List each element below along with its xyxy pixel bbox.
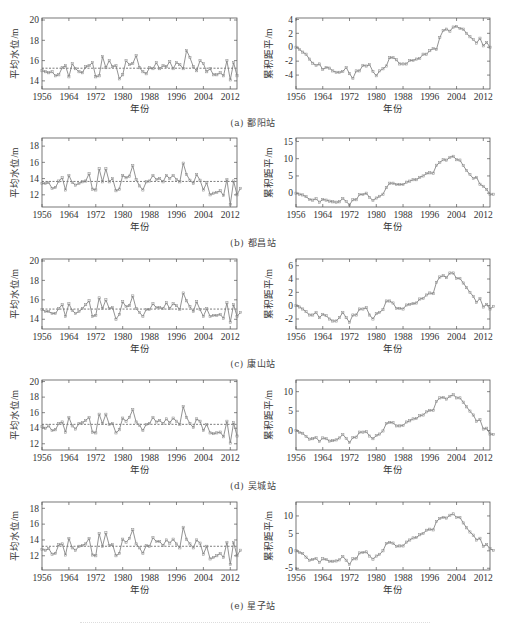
y-axis-label: 平均水位/m bbox=[9, 28, 20, 79]
x-tick-label: 1956 bbox=[287, 332, 306, 342]
x-tick-label: 2012 bbox=[221, 332, 240, 342]
x-axis-label: 年份 bbox=[383, 584, 403, 595]
x-tick-label: 1972 bbox=[340, 210, 359, 220]
y-tick-label: -4 bbox=[285, 70, 293, 80]
plot-frame bbox=[42, 380, 237, 450]
plot-frame bbox=[42, 502, 237, 570]
chart-e-water-level: 1956196419721980198819962004201212141618… bbox=[0, 495, 253, 605]
x-tick-label: 1996 bbox=[167, 332, 186, 342]
x-tick-label: 1964 bbox=[313, 332, 332, 342]
x-tick-label: 2012 bbox=[474, 92, 493, 102]
caption-a: (a) 鄱阳站 bbox=[0, 116, 506, 129]
y-tick-label: 10 bbox=[284, 154, 294, 164]
y-tick-label: 20 bbox=[30, 256, 40, 266]
series-line bbox=[42, 293, 240, 322]
y-axis-label: 平均水位/m bbox=[9, 510, 20, 561]
y-tick-label: 12 bbox=[30, 190, 40, 200]
plot-frame bbox=[42, 18, 237, 89]
y-tick-label: 20 bbox=[30, 15, 40, 25]
series-line bbox=[42, 527, 240, 564]
x-tick-label: 1980 bbox=[113, 573, 132, 583]
x-tick-label: 2012 bbox=[474, 453, 493, 463]
y-tick-label: 18 bbox=[30, 36, 40, 46]
y-tick-label: 14 bbox=[30, 423, 40, 433]
x-tick-label: 1988 bbox=[140, 92, 159, 102]
chart-svg: 19561964197219801988199620042012-50510年份… bbox=[253, 495, 506, 605]
y-axis-label: 平均水位/m bbox=[9, 389, 20, 440]
x-tick-label: 1964 bbox=[313, 92, 332, 102]
chart-b-cumulative-anomaly: 19561964197219801988199620042012051015年份… bbox=[253, 131, 506, 241]
x-tick-label: 1972 bbox=[340, 92, 359, 102]
x-tick-label: 2004 bbox=[447, 332, 466, 342]
caption-c: (c) 康山站 bbox=[0, 357, 506, 370]
x-tick-label: 1964 bbox=[59, 453, 78, 463]
y-tick-label: -2 bbox=[285, 314, 293, 324]
x-tick-label: 2012 bbox=[221, 92, 240, 102]
y-tick-label: 16 bbox=[30, 408, 40, 418]
x-tick-label: 1964 bbox=[59, 92, 78, 102]
series-line bbox=[296, 26, 490, 78]
x-tick-label: 1964 bbox=[59, 573, 78, 583]
series-line bbox=[296, 156, 493, 205]
y-tick-label: 14 bbox=[30, 76, 40, 86]
figure-footer-cropped bbox=[80, 622, 430, 626]
y-tick-label: 16 bbox=[30, 56, 40, 66]
x-tick-label: 1996 bbox=[167, 573, 186, 583]
x-tick-label: 2004 bbox=[194, 573, 213, 583]
chart-svg: 195619641972198019881996200420120510年份累积… bbox=[253, 373, 506, 483]
x-tick-label: 1988 bbox=[394, 332, 413, 342]
plot-frame bbox=[296, 138, 490, 207]
x-tick-label: 1996 bbox=[167, 92, 186, 102]
chart-svg: 19561964197219801988199620042012051015年份… bbox=[253, 131, 506, 241]
caption-b: (b) 都昌站 bbox=[0, 236, 506, 249]
x-tick-label: 1956 bbox=[33, 210, 52, 220]
y-axis-label: 平均水位/m bbox=[9, 268, 20, 319]
x-tick-label: 1980 bbox=[113, 210, 132, 220]
x-tick-label: 1956 bbox=[33, 332, 52, 342]
x-tick-label: 1964 bbox=[313, 453, 332, 463]
x-tick-label: 1972 bbox=[340, 332, 359, 342]
x-tick-label: 1972 bbox=[340, 573, 359, 583]
x-tick-label: 1988 bbox=[140, 573, 159, 583]
chart-b-water-level: 1956196419721980198819962004201212141618… bbox=[0, 131, 253, 241]
y-tick-label: 15 bbox=[284, 137, 294, 147]
y-tick-label: 14 bbox=[30, 535, 40, 545]
x-tick-label: 2012 bbox=[474, 573, 493, 583]
y-tick-label: 10 bbox=[284, 511, 294, 521]
series-line bbox=[296, 395, 493, 443]
x-tick-label: 1964 bbox=[313, 573, 332, 583]
x-tick-label: 1980 bbox=[113, 332, 132, 342]
plot-frame bbox=[42, 138, 237, 207]
x-tick-label: 2004 bbox=[447, 210, 466, 220]
y-tick-label: 2 bbox=[288, 29, 293, 39]
chart-a-cumulative-anomaly: 19561964197219801988199620042012-4-2024年… bbox=[253, 10, 506, 120]
x-tick-label: 2012 bbox=[221, 573, 240, 583]
chart-svg: 19561964197219801988199620042012-4-2024年… bbox=[253, 10, 506, 120]
y-tick-label: 0 bbox=[288, 301, 293, 311]
x-tick-label: 1980 bbox=[113, 453, 132, 463]
y-axis-label: 累积距平/m bbox=[263, 268, 274, 319]
x-tick-label: 2004 bbox=[194, 453, 213, 463]
y-tick-label: 14 bbox=[30, 314, 40, 324]
series-line bbox=[42, 50, 237, 79]
x-tick-label: 2012 bbox=[221, 210, 240, 220]
chart-svg: 1956196419721980198819962004201214161820… bbox=[0, 252, 253, 362]
y-tick-label: 0 bbox=[288, 42, 293, 52]
y-tick-label: 4 bbox=[288, 274, 293, 284]
y-tick-label: 16 bbox=[30, 519, 40, 529]
x-axis-label: 年份 bbox=[130, 343, 150, 354]
x-tick-label: 1964 bbox=[59, 332, 78, 342]
y-tick-label: 5 bbox=[288, 529, 293, 539]
y-tick-label: 20 bbox=[30, 377, 40, 387]
x-tick-label: 1988 bbox=[140, 332, 159, 342]
x-tick-label: 2004 bbox=[194, 92, 213, 102]
x-tick-label: 1980 bbox=[367, 332, 386, 342]
y-tick-label: 5 bbox=[288, 171, 293, 181]
x-tick-label: 2012 bbox=[474, 332, 493, 342]
chart-d-cumulative-anomaly: 195619641972198019881996200420120510年份累积… bbox=[253, 373, 506, 483]
x-tick-label: 1996 bbox=[167, 210, 186, 220]
x-tick-label: 1972 bbox=[86, 573, 105, 583]
x-tick-label: 1988 bbox=[140, 210, 159, 220]
x-tick-label: 1988 bbox=[394, 92, 413, 102]
x-tick-label: 1972 bbox=[86, 210, 105, 220]
